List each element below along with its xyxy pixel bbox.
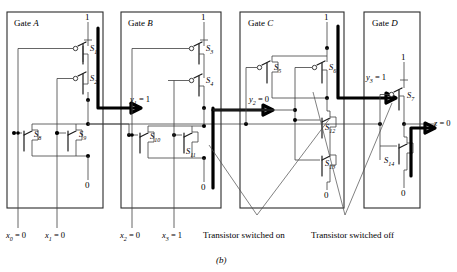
net-a-to-b	[88, 124, 129, 135]
gate-c-title: Gate C	[248, 18, 273, 28]
switch-label-s7: S7	[407, 90, 414, 102]
switch-label-s12: S12	[325, 122, 335, 134]
gate-a-gnd-label: 0	[85, 180, 90, 190]
signal-label-y2: y2 = 0	[249, 94, 269, 106]
gate-a-title: Gate A	[14, 18, 39, 28]
gate-c-vdd-label: 1	[324, 12, 329, 22]
signal-label-z: z = 0	[434, 118, 451, 128]
switch-label-s9: S9	[79, 129, 86, 141]
input-label-x0: x0 = 0	[6, 230, 26, 242]
annotation-switched-off: Transistor switched off	[311, 230, 394, 240]
gate-d-title: Gate D	[372, 18, 398, 28]
switch-label-s4: S4	[206, 75, 213, 87]
gate-d-gnd-label: 0	[401, 188, 406, 198]
gate-b-gnd-label: 0	[201, 182, 206, 192]
pointer-on-1	[209, 145, 257, 215]
signal-label-y1: y1 = 1	[130, 94, 150, 106]
switch-label-s13: S13	[325, 158, 335, 170]
switch-label-s2: S2	[90, 73, 97, 85]
figure-caption: (b)	[216, 255, 227, 265]
switch-label-s5: S5	[274, 62, 281, 74]
switch-label-s1: S1	[90, 43, 97, 55]
circuit-figure: Gate A Gate B Gate C Gate D 1 1 1 1 0 0 …	[0, 0, 457, 272]
gate-d-vdd-label: 1	[401, 52, 406, 62]
switch-label-s6: S6	[329, 62, 336, 74]
gate-b-vdd-label: 1	[201, 12, 206, 22]
annotation-switched-on: Transistor switched on	[203, 230, 285, 240]
gate-c-gnd-label: 0	[324, 190, 329, 200]
switch-label-s11: S11	[186, 146, 196, 158]
bold-path-gate-c	[338, 26, 393, 98]
gate-a-vdd-label: 1	[85, 12, 90, 22]
gate-b-circuit	[127, 22, 208, 228]
gate-a-box	[7, 12, 103, 208]
signal-label-y3: y3 = 1	[366, 72, 386, 84]
input-label-x2: x2 = 0	[120, 230, 140, 242]
gate-c-circuit	[213, 22, 336, 190]
switch-label-s14: S14	[384, 155, 394, 167]
input-label-x1: x1 = 0	[45, 230, 65, 242]
switch-label-s10: S10	[150, 131, 160, 143]
pointer-off-1	[313, 92, 345, 215]
gate-b-title: Gate B	[128, 18, 153, 28]
bold-path-gate-d	[411, 128, 432, 176]
pointer-on-2	[257, 118, 330, 215]
switch-label-s3: S3	[206, 43, 213, 55]
switch-label-s8: S8	[34, 129, 41, 141]
gate-d-box	[364, 12, 420, 208]
input-label-x3: x3 = 1	[162, 230, 182, 242]
gate-a-circuit	[12, 22, 92, 228]
